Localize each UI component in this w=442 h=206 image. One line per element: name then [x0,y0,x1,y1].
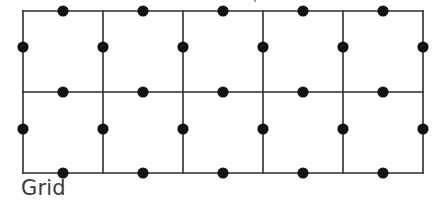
grid-dot-h-r0-c4 [377,5,388,16]
grid-dot-v-r1-c5 [417,123,428,134]
grid-dot-v-r0-c2 [177,41,188,52]
grid-diagram [0,0,442,206]
grid-dot-h-r2-c4 [377,167,388,178]
grid-dot-h-r0-c1 [137,5,148,16]
grid-dot-v-r0-c4 [337,41,348,52]
grid-dot-h-r1-c4 [377,86,388,97]
grid-dot-v-r0-c1 [97,41,108,52]
grid-dot-h-r2-c1 [137,167,148,178]
grid-dot-v-r1-c4 [337,123,348,134]
grid-dot-v-r1-c3 [257,123,268,134]
grid-figure: , Grid [0,0,442,206]
grid-dot-v-r0-c0 [17,41,28,52]
grid-dot-h-r1-c1 [137,86,148,97]
grid-dot-v-r1-c1 [97,123,108,134]
grid-dot-h-r1-c0 [57,86,68,97]
grid-dot-h-r2-c2 [217,167,228,178]
grid-dot-h-r0-c0 [57,5,68,16]
grid-dot-v-r1-c0 [17,123,28,134]
figure-caption: Grid [21,175,66,201]
grid-dot-h-r2-c3 [297,167,308,178]
grid-dot-h-r0-c2 [217,5,228,16]
grid-dot-h-r1-c3 [297,86,308,97]
grid-dot-h-r0-c3 [297,5,308,16]
grid-dot-v-r1-c2 [177,123,188,134]
grid-dot-v-r0-c5 [417,41,428,52]
grid-dot-h-r1-c2 [217,86,228,97]
grid-dot-v-r0-c3 [257,41,268,52]
